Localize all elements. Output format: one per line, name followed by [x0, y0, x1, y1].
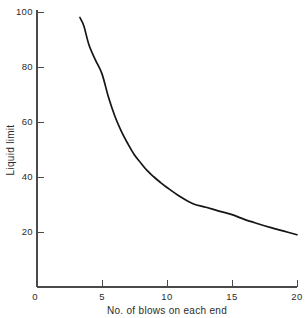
y-tick-label-60: 60 [22, 116, 33, 127]
flow-curve-plot: 100 80 60 40 20 0 5 10 15 20 No. of blow… [0, 0, 308, 318]
x-tick-label-0: 0 [32, 291, 38, 302]
chart-figure: 100 80 60 40 20 0 5 10 15 20 No. of blow… [0, 0, 308, 318]
x-tick-label-20: 20 [291, 291, 302, 302]
y-tick-label-20: 20 [22, 226, 33, 237]
flow-curve-line [80, 18, 297, 235]
x-tick-label-10: 10 [161, 291, 172, 302]
y-tick-label-40: 40 [22, 171, 33, 182]
y-tick-label-80: 80 [22, 61, 33, 72]
x-axis-title: No. of blows on each end [107, 305, 227, 316]
y-axis-title: Liquid limit [5, 125, 16, 176]
x-tick-label-15: 15 [226, 291, 237, 302]
x-tick-label-5: 5 [99, 291, 105, 302]
y-tick-label-100: 100 [16, 6, 33, 17]
